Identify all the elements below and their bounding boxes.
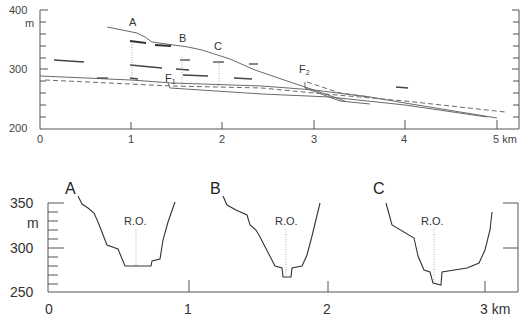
terrace-level-dashed [45, 80, 505, 112]
f2-dashed-continuation [307, 82, 370, 97]
bottom-y-unit: m [27, 215, 39, 231]
bottom-y-tick-350: 350 [10, 195, 34, 211]
bottom-panel: 350 m 300 250 0 1 2 3 km A R.O. B R.O. C… [10, 180, 518, 317]
bottom-x-tick-0: 0 [45, 301, 53, 317]
top-panel: 400 m 300 200 0 1 2 3 [9, 4, 519, 145]
top-x-tick-5: 5 km [493, 133, 517, 145]
top-y-tick-400: 400 [9, 4, 27, 16]
bottom-y-tick-300: 300 [10, 240, 34, 256]
bottom-x-tick-1: 1 [184, 301, 192, 317]
profile-label-b: B [179, 32, 186, 44]
ro-label-a: R.O. [124, 215, 147, 227]
fault-label-f1: F1 [165, 72, 176, 85]
profile-label-a: A [129, 16, 137, 28]
top-x-tick-4: 4 [401, 133, 407, 145]
bottom-y-ticks [48, 203, 64, 284]
top-y-unit: m [25, 17, 34, 29]
top-x-tick-3: 3 [311, 133, 317, 145]
figure: 400 m 300 200 0 1 2 3 [0, 0, 524, 331]
cross-section-a [78, 196, 175, 266]
section-label-a: A [65, 180, 76, 197]
terrace-fragments [54, 41, 408, 88]
top-x-tick-2: 2 [219, 133, 225, 145]
cross-section-b [223, 196, 320, 277]
bottom-y-tick-250: 250 [10, 284, 34, 300]
top-y-tick-200: 200 [9, 122, 27, 134]
ro-label-c: R.O. [421, 215, 444, 227]
bottom-x-tick-2: 2 [323, 301, 331, 317]
top-x-tick-0: 0 [37, 133, 43, 145]
profile-label-c: C [214, 40, 222, 52]
section-label-b: B [210, 180, 221, 197]
terrace-level-solid [40, 76, 497, 118]
top-x-tick-1: 1 [128, 133, 134, 145]
f1-step-lower-line [168, 83, 487, 117]
fault-label-f2: F2 [299, 63, 310, 76]
section-label-c: C [373, 180, 385, 197]
top-right-ticks [512, 10, 519, 117]
bottom-x-tick-3: 3 km [480, 301, 510, 317]
top-x-ticks [131, 120, 497, 129]
ro-label-b: R.O. [275, 215, 298, 227]
top-y-tick-300: 300 [9, 63, 27, 75]
top-y-ticks [40, 10, 48, 117]
